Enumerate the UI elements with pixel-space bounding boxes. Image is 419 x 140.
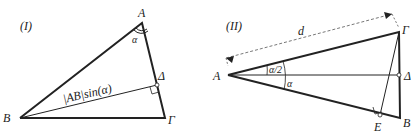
triangle-abg — [20, 23, 165, 118]
point-a-label: A — [212, 69, 221, 83]
point-e-label: E — [373, 120, 382, 134]
altitude-ge — [380, 32, 399, 115]
point-d-label: Δ — [157, 69, 165, 83]
point-d-label: Δ — [403, 69, 411, 83]
point-d-marker — [397, 73, 401, 77]
point-g-label: Γ — [167, 113, 176, 127]
angle-arc-a — [136, 28, 147, 31]
figure-2-label: (II) — [226, 19, 242, 33]
figure-2: (II) A Γ Δ B E α/2 α d — [212, 12, 411, 134]
distance-d-arrow — [226, 14, 392, 58]
point-b-label: B — [3, 111, 11, 125]
geometry-diagrams: (I) A B Γ Δ α |AB|sin(α) (II) A Γ Δ B E … — [0, 0, 419, 140]
half-angle-label: α/2 — [269, 64, 282, 75]
distance-d-label: d — [298, 24, 305, 38]
angle-alpha-label: α — [287, 78, 293, 89]
point-d-marker — [155, 83, 159, 87]
figure-1-label: (I) — [20, 19, 32, 33]
angle-alpha-label: α — [132, 34, 138, 45]
point-b-label: B — [403, 116, 411, 130]
figure-1: (I) A B Γ Δ α |AB|sin(α) — [3, 6, 176, 127]
point-a-label: A — [137, 6, 146, 20]
point-e-marker — [378, 113, 382, 117]
point-g-label: Γ — [401, 23, 410, 37]
